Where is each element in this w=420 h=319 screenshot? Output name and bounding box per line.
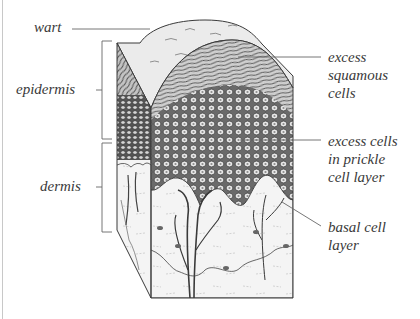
label-excess-prickle-cells: excess cells in prickle cell layer: [328, 132, 398, 186]
label-dermis: dermis: [40, 179, 81, 194]
label-wart: wart: [34, 20, 62, 35]
label-excess-squamous-cells: excess squamous cells: [328, 48, 388, 102]
epidermis-bracket: [96, 41, 112, 139]
dermis-bracket: [96, 143, 112, 232]
label-epidermis: epidermis: [16, 82, 75, 97]
label-basal-cell-layer: basal cell layer: [328, 218, 386, 254]
diagram-canvas: wart epidermis dermis excess squamous ce…: [0, 0, 420, 319]
